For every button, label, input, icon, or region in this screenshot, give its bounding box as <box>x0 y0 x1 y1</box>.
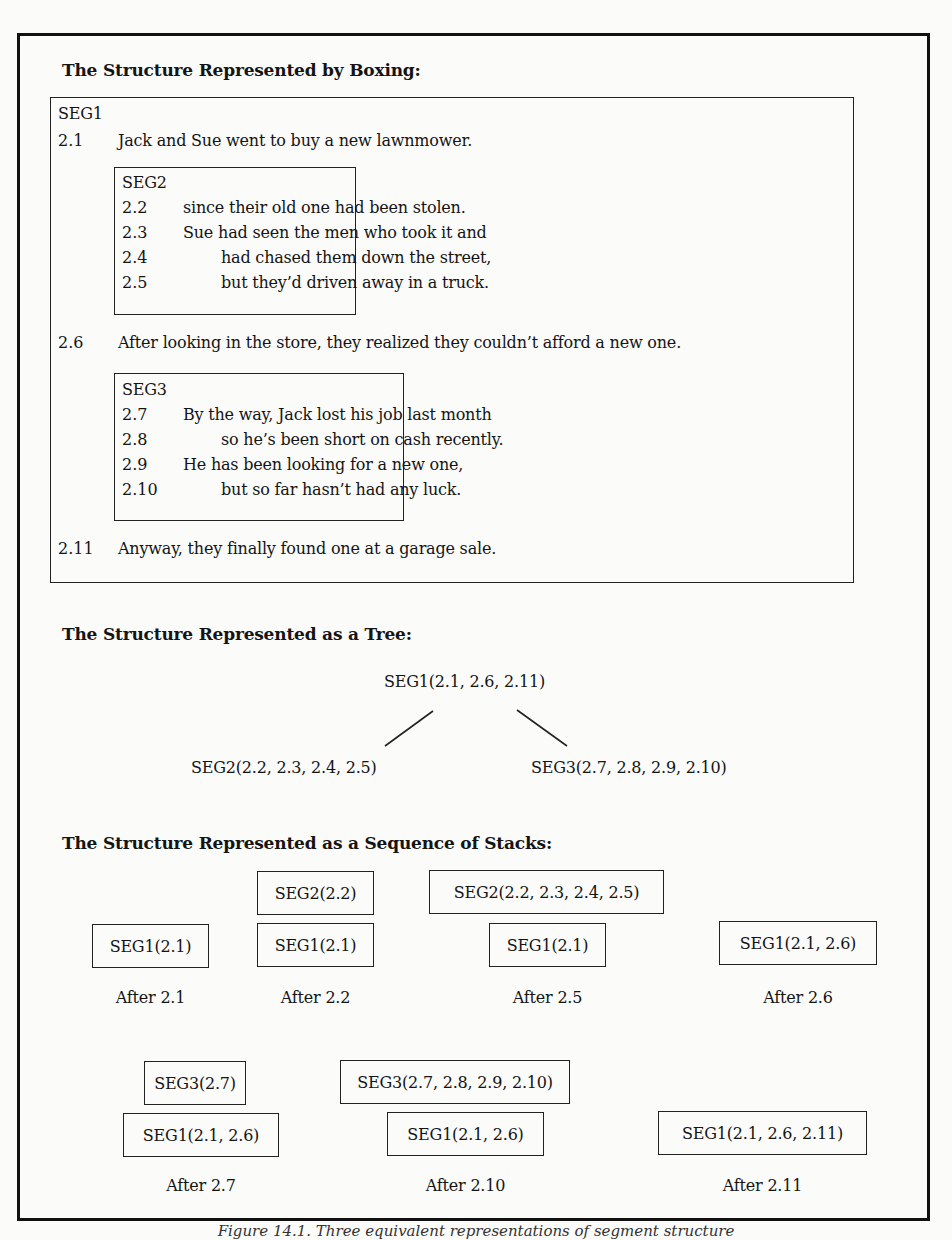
stack-frame: SEG1(2.1, 2.6, 2.11) <box>658 1111 867 1155</box>
stack-frame: SEG1(2.1) <box>257 923 374 967</box>
stack-label: After 2.10 <box>387 1176 544 1195</box>
stack-frame: SEG2(2.2) <box>257 871 374 915</box>
stack-frame: SEG1(2.1) <box>489 923 606 967</box>
tree-right-node: SEG3(2.7, 2.8, 2.9, 2.10) <box>531 758 727 777</box>
stack-label: After 2.7 <box>123 1176 279 1195</box>
stack-frame: SEG1(2.1, 2.6) <box>719 921 877 965</box>
stack-label: After 2.2 <box>257 988 374 1007</box>
stack-frame: SEG1(2.1, 2.6) <box>123 1113 279 1157</box>
stack-label: After 2.11 <box>658 1176 867 1195</box>
stack-label: After 2.5 <box>489 988 606 1007</box>
tree-left-node: SEG2(2.2, 2.3, 2.4, 2.5) <box>191 758 377 777</box>
stack-label: After 2.6 <box>719 988 877 1007</box>
stack-frame: SEG3(2.7, 2.8, 2.9, 2.10) <box>340 1060 570 1104</box>
stack-label: After 2.1 <box>92 988 209 1007</box>
figure-caption: Figure 14.1. Three equivalent representa… <box>0 1222 952 1240</box>
stack-frame: SEG1(2.1, 2.6) <box>387 1112 544 1156</box>
stack-frame: SEG3(2.7) <box>144 1061 246 1105</box>
stack-frame: SEG1(2.1) <box>92 924 209 968</box>
stacks-heading: The Structure Represented as a Sequence … <box>62 833 552 853</box>
stack-frame: SEG2(2.2, 2.3, 2.4, 2.5) <box>429 870 664 914</box>
